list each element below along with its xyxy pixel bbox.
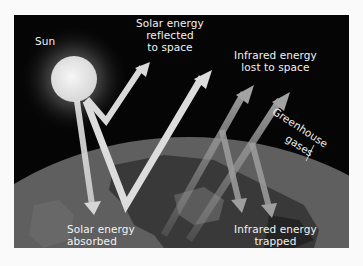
sun-label: Sun — [35, 35, 55, 47]
solar-reflected-label: Solar energy reflected to space — [136, 17, 204, 53]
greenhouse-effect-diagram: Sun Solar energy reflected to space Infr… — [14, 15, 349, 248]
infrared-lost-label: Infrared energy lost to space — [234, 49, 317, 73]
solar-absorbed-label: Solar energy absorbed — [67, 223, 135, 247]
infrared-trapped-label: Infrared energy trapped — [234, 223, 317, 247]
sun-icon — [51, 56, 97, 102]
